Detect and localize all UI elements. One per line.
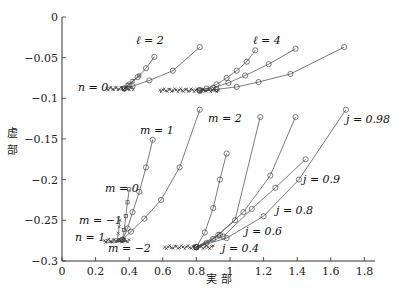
label-mm2: m = −2 [108, 242, 151, 255]
y-tick-label: −0.25 [24, 214, 58, 227]
circle-marker [293, 114, 298, 119]
label-l4: ℓ = 4 [253, 34, 281, 47]
y-ticks: 0−0.05−0.1−0.15−0.2−0.25−0.3 [24, 11, 66, 268]
y-tick-label: −0.15 [24, 133, 58, 146]
marker-cluster [158, 87, 219, 92]
x-tick-label: 0.4 [120, 265, 138, 278]
marker-cluster [163, 244, 214, 249]
y-tick-label: −0.3 [31, 255, 58, 268]
series-group [103, 44, 348, 249]
circle-marker [258, 114, 263, 119]
label-j08: j = 0.8 [273, 204, 313, 217]
y-axis-title-top: 虚 [7, 127, 18, 140]
label-l2: ℓ = 2 [136, 34, 164, 47]
x-tick-label: 0.6 [154, 265, 172, 278]
label-j06: j = 0.6 [242, 225, 282, 238]
x-tick-label: 0.8 [188, 265, 206, 278]
label-j04: j = 0.4 [219, 242, 259, 255]
label-n0: n = 0 [78, 81, 108, 94]
y-tick-label: −0.2 [31, 174, 58, 187]
series [194, 151, 229, 250]
x-tick-label: 1.4 [288, 265, 306, 278]
chart: 0−0.05−0.1−0.15−0.2−0.25−0.3 00.20.40.60… [0, 0, 395, 301]
y-tick-label: −0.1 [31, 92, 58, 105]
label-m1: m = 1 [140, 124, 174, 137]
circle-marker [224, 151, 229, 156]
circle-marker [342, 44, 347, 49]
y-axis-title-bottom: 部 [7, 143, 18, 157]
x-tick-label: 0 [59, 265, 66, 278]
label-j09: j = 0.9 [300, 173, 340, 186]
x-axis-title: 実 部 [206, 272, 232, 286]
series [197, 48, 258, 93]
series [122, 44, 203, 91]
x-tick-label: 1.2 [255, 265, 273, 278]
circle-marker [197, 107, 202, 112]
y-tick-label: −0.05 [24, 52, 58, 65]
x-tick-label: 0.2 [87, 265, 105, 278]
label-j098: j = 0.98 [343, 113, 390, 126]
x-tick-label: 1.8 [356, 265, 374, 278]
label-m0: m = 0 [105, 182, 139, 195]
circle-marker [150, 137, 155, 142]
label-m2: m = 2 [208, 112, 242, 125]
x-tick-label: 1.6 [322, 265, 340, 278]
label-mm1: m = −1 [79, 214, 122, 227]
circle-marker [303, 157, 308, 162]
y-tick-label: 0 [51, 11, 58, 24]
series [197, 44, 347, 93]
circle-marker [343, 107, 348, 112]
label-n1: n = 1 [75, 231, 105, 244]
circle-marker [293, 46, 298, 51]
series [197, 46, 298, 93]
